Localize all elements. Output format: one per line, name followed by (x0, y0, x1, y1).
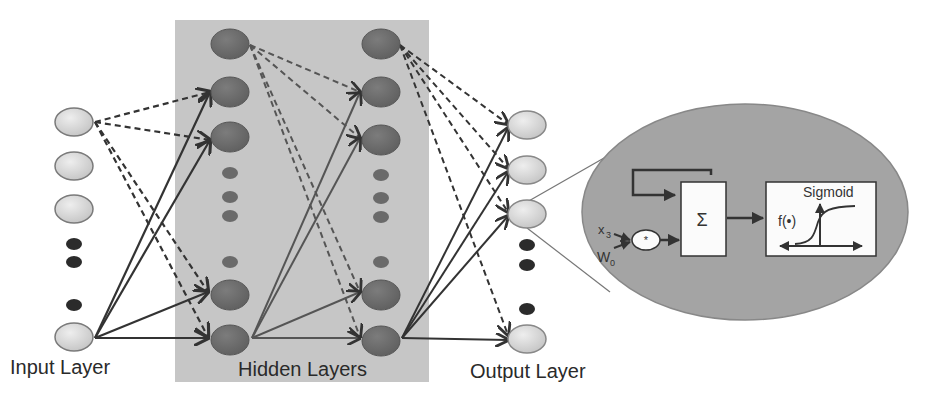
input-layer-nodes (55, 108, 93, 351)
sum-symbol: Σ (696, 210, 707, 230)
multiply-symbol: * (644, 234, 649, 246)
activation-function-label: f(•) (778, 213, 796, 229)
hidden-layers-label: Hidden Layers (238, 358, 367, 381)
output-node (508, 325, 546, 353)
input-node (55, 152, 93, 180)
output-node (508, 111, 546, 139)
input-x-subscript: 3 (606, 230, 611, 240)
input-ellipsis-dots (66, 238, 82, 311)
input-x-label: x (598, 222, 605, 237)
input-node (55, 108, 93, 136)
input-node (55, 323, 93, 351)
output-node (508, 156, 546, 184)
neural-network-diagram: Σ * Sigmoid f(•) x 3 W 0 (0, 0, 925, 409)
input-layer-label: Input Layer (10, 356, 110, 379)
output-node (508, 200, 546, 228)
weight-w-subscript: 0 (610, 258, 615, 268)
neuron-detail-zoom: Σ * Sigmoid f(•) x 3 W 0 (582, 104, 908, 320)
sigmoid-title: Sigmoid (803, 184, 854, 200)
output-layer-nodes (508, 111, 546, 353)
output-layer-label: Output Layer (470, 360, 586, 383)
weight-w-label: W (597, 249, 611, 265)
input-node (55, 195, 93, 223)
output-ellipsis-dots (519, 239, 535, 315)
